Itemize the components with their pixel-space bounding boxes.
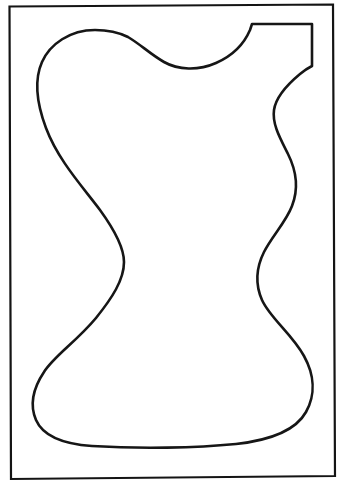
line-art-artboard: [0, 0, 342, 487]
page-canvas: [0, 0, 342, 487]
